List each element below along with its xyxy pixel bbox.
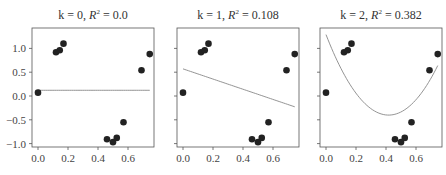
data-point (392, 136, 399, 143)
data-point (120, 119, 127, 126)
data-point (265, 119, 272, 126)
x-tick-label: 0.0 (319, 152, 333, 164)
data-point (344, 47, 351, 54)
data-point (434, 51, 441, 58)
subplot-k2: k = 2, R2 = 0.3820.00.20.40.6 (288, 0, 438, 175)
x-tick-label: 0.6 (409, 152, 423, 164)
data-point (426, 67, 433, 74)
fit-curve (326, 35, 438, 115)
data-point (113, 135, 120, 142)
x-tick-label: 0.0 (176, 152, 190, 164)
data-point (401, 135, 408, 142)
x-tick-label: 0.2 (206, 152, 220, 164)
data-point (56, 47, 63, 54)
plot-area: 1.00.50.0−0.5−1.00.00.20.40.6 (0, 0, 160, 175)
plot-area: 0.00.20.40.6 (145, 0, 305, 175)
y-tick-label: −1.0 (6, 138, 26, 150)
y-tick-label: 0.0 (12, 90, 26, 102)
x-tick-label: 0.6 (121, 152, 135, 164)
plot-area: 0.00.20.40.6 (288, 0, 446, 175)
data-point (104, 136, 111, 143)
data-point (258, 135, 265, 142)
subplot-k0: k = 0, R2 = 0.01.00.50.0−0.5−1.00.00.20.… (0, 0, 150, 175)
data-point (60, 40, 67, 47)
data-point (408, 119, 415, 126)
data-point (180, 89, 187, 96)
axes-frame (320, 28, 442, 147)
x-tick-label: 0.2 (349, 152, 363, 164)
data-point (201, 47, 208, 54)
y-tick-label: −0.5 (6, 114, 26, 126)
x-tick-label: 0.6 (266, 152, 280, 164)
axes-frame (32, 28, 154, 147)
x-tick-label: 0.4 (91, 152, 105, 164)
data-point (323, 89, 330, 96)
y-tick-label: 0.5 (12, 66, 26, 78)
subplot-k1: k = 1, R2 = 0.1080.00.20.40.6 (145, 0, 295, 175)
x-tick-label: 0.4 (236, 152, 250, 164)
x-tick-label: 0.4 (379, 152, 393, 164)
data-point (138, 67, 145, 74)
data-point (205, 40, 212, 47)
y-tick-label: 1.0 (12, 42, 26, 54)
x-tick-label: 0.2 (61, 152, 75, 164)
data-point (348, 40, 355, 47)
data-point (249, 136, 256, 143)
data-point (35, 89, 42, 96)
fit-curve (183, 69, 295, 107)
x-tick-label: 0.0 (31, 152, 45, 164)
